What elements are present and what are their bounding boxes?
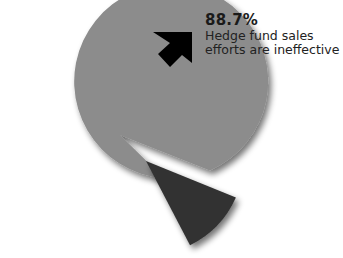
pie-slice-exploded xyxy=(146,161,236,245)
callout-line-1: Hedge fund sales xyxy=(205,29,339,43)
callout-label: 88.7% Hedge fund sales efforts are ineff… xyxy=(205,12,339,57)
callout-value: 88.7% xyxy=(205,12,339,29)
callout-line-2: efforts are ineffective xyxy=(205,43,339,57)
